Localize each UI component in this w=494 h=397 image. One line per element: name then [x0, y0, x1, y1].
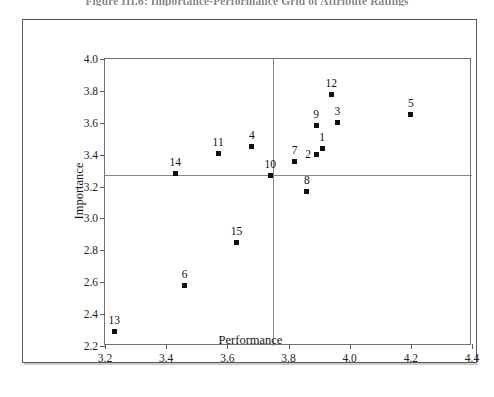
data-point-marker [408, 112, 413, 117]
data-point-label: 6 [182, 269, 188, 281]
data-point-label: 10 [264, 159, 276, 171]
x-tick-label: 3.4 [159, 352, 173, 364]
data-point-marker [268, 173, 273, 178]
data-point-label: 11 [213, 137, 224, 149]
data-point-label: 12 [326, 78, 338, 90]
y-tick-label: 4.0 [84, 53, 98, 65]
data-point-marker [329, 92, 334, 97]
data-point-marker [182, 283, 187, 288]
data-point-marker [320, 146, 325, 151]
quadrant-divider-horizontal [105, 175, 472, 176]
y-tick-label: 3.6 [84, 117, 98, 129]
quadrant-divider-vertical [273, 59, 274, 346]
data-point-label: 9 [313, 109, 319, 121]
y-tick-mark [100, 91, 105, 92]
data-point-label: 7 [292, 145, 298, 157]
figure-caption: Figure III.6: Importance-Performance Gri… [0, 0, 494, 6]
figure-container: 2.22.42.62.83.03.23.43.63.84.0 3.23.43.6… [22, 19, 477, 363]
data-point-marker [234, 240, 239, 245]
x-tick-label: 3.8 [281, 352, 295, 364]
data-point-marker [216, 151, 221, 156]
y-tick-label: 2.8 [84, 244, 98, 256]
data-point-marker [314, 152, 319, 157]
x-axis-title: Performance [23, 333, 478, 348]
y-tick-mark [100, 155, 105, 156]
y-tick-label: 2.4 [84, 308, 98, 320]
y-tick-mark [100, 218, 105, 219]
data-point-label: 1 [319, 132, 325, 144]
y-tick-label: 3.4 [84, 149, 98, 161]
data-point-label: 4 [249, 130, 255, 142]
data-point-label: 3 [335, 106, 341, 118]
x-tick-label: 4.2 [404, 352, 418, 364]
data-point-label: 15 [231, 226, 243, 238]
y-tick-mark [100, 314, 105, 315]
y-tick-label: 3.8 [84, 85, 98, 97]
data-point-label: 13 [108, 315, 120, 327]
data-point-marker [304, 189, 309, 194]
data-point-marker [249, 144, 254, 149]
x-tick-label: 4.0 [342, 352, 356, 364]
y-tick-mark [100, 250, 105, 251]
data-point-marker [335, 120, 340, 125]
data-point-label: 14 [170, 157, 182, 169]
y-tick-mark [100, 59, 105, 60]
data-point-label: 8 [304, 175, 310, 187]
data-point-label: 5 [408, 98, 414, 110]
data-point-marker [314, 123, 319, 128]
x-tick-label: 4.4 [465, 352, 479, 364]
y-axis-title: Importance [72, 163, 87, 220]
data-point-marker [292, 159, 297, 164]
scatter-plot-area: 2.22.42.62.83.03.23.43.63.84.0 3.23.43.6… [104, 58, 471, 345]
y-tick-mark [100, 282, 105, 283]
y-tick-label: 2.6 [84, 276, 98, 288]
x-tick-label: 3.6 [220, 352, 234, 364]
data-point-label: 2 [305, 149, 311, 161]
y-tick-mark [100, 123, 105, 124]
x-tick-label: 3.2 [98, 352, 112, 364]
data-point-marker [173, 171, 178, 176]
y-tick-mark [100, 187, 105, 188]
